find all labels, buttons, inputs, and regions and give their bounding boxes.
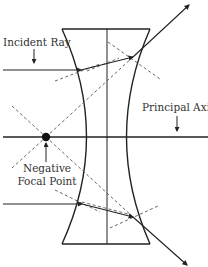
negative-focal-point — [42, 133, 50, 141]
diverging-lens-diagram: Incident Ray Principal Axis Negative Foc… — [0, 0, 208, 267]
principal-axis-label: Principal Axis — [142, 101, 208, 113]
focal-point-label-line2: Focal Point — [17, 175, 77, 187]
incident-ray-label: Incident Ray — [3, 36, 71, 48]
upper-emergent-ray — [133, 5, 189, 57]
lower-emergent-ray — [133, 217, 187, 265]
focal-point-label-line1: Negative — [23, 162, 71, 174]
